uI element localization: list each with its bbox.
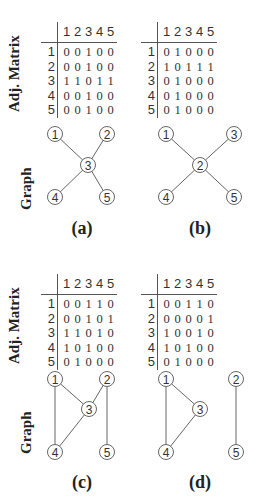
- graph-node: 3: [82, 402, 97, 417]
- node-label: 4: [163, 191, 170, 205]
- graph-edge: [55, 409, 89, 452]
- graph-node: 5: [100, 445, 115, 460]
- graph-node: 5: [229, 445, 244, 460]
- graph-node: 2: [229, 372, 244, 387]
- graph-node: 1: [159, 127, 174, 142]
- graph-node: 4: [159, 190, 174, 205]
- node-label: 5: [231, 191, 238, 205]
- panel-b: 1234510100021011130100040100050100013245…: [130, 0, 260, 250]
- graph-node: 4: [48, 190, 63, 205]
- graph-node: 4: [159, 445, 174, 460]
- panel-c: 1234510011020010131101041010050100012345…: [0, 252, 130, 502]
- graph-node: 3: [81, 158, 96, 173]
- node-label: 1: [52, 373, 59, 387]
- node-label: 2: [197, 159, 204, 173]
- graph-node: 4: [48, 445, 63, 460]
- node-label: 3: [197, 403, 204, 417]
- graph-node: 3: [193, 402, 208, 417]
- panel-caption: (d): [170, 472, 230, 493]
- node-label: 4: [52, 446, 59, 460]
- panel-caption: (c): [52, 472, 112, 493]
- graph-node: 5: [227, 190, 242, 205]
- node-label: 3: [231, 128, 238, 142]
- graph-node: 3: [227, 127, 242, 142]
- graph-node: 2: [193, 158, 208, 173]
- node-label: 2: [233, 373, 240, 387]
- node-label: 1: [163, 128, 170, 142]
- node-label: 3: [86, 403, 93, 417]
- graph-node: 1: [48, 127, 63, 142]
- graph-node: 5: [100, 190, 115, 205]
- node-label: 4: [163, 446, 170, 460]
- node-label: 5: [233, 446, 240, 460]
- node-label: 2: [104, 128, 111, 142]
- graph-diagram: 12345: [130, 252, 260, 502]
- graph-diagram: 12345: [0, 0, 130, 250]
- node-label: 5: [104, 191, 111, 205]
- graph-diagram: 13245: [130, 0, 260, 250]
- node-label: 1: [52, 128, 59, 142]
- panel-caption: (a): [52, 218, 112, 239]
- graph-diagram: 12345: [0, 252, 130, 502]
- node-label: 3: [85, 159, 92, 173]
- panel-caption: (b): [170, 218, 230, 239]
- node-label: 2: [104, 373, 111, 387]
- graph-node: 2: [100, 127, 115, 142]
- graph-edge: [166, 409, 200, 452]
- node-label: 1: [163, 373, 170, 387]
- node-label: 4: [52, 191, 59, 205]
- graph-node: 1: [159, 372, 174, 387]
- node-label: 5: [104, 446, 111, 460]
- graph-node: 2: [100, 372, 115, 387]
- graph-node: 1: [48, 372, 63, 387]
- panel-d: 1234510011020000131001041010050100012345…: [130, 252, 260, 502]
- panel-a: 1234510010020010031101140010050010012345…: [0, 0, 130, 250]
